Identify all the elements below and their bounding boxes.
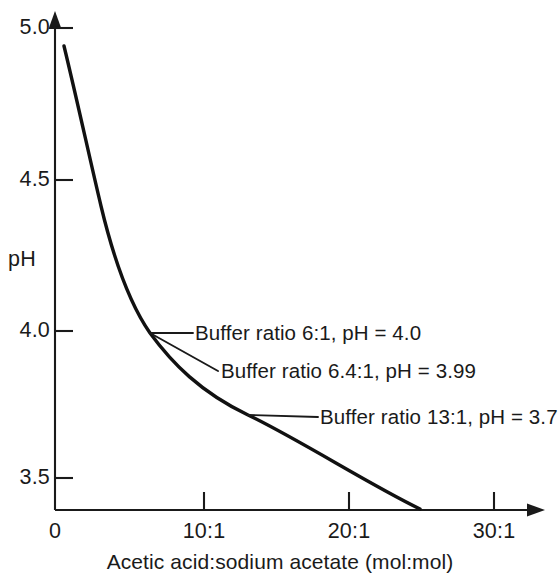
annotation-label-buffer-ratio-13-1: Buffer ratio 13:1, pH = 3.7: [320, 407, 558, 428]
y-axis-title: pH: [8, 249, 36, 271]
x-axis-title: Acetic acid:sodium acetate (mol:mol): [0, 551, 560, 572]
leader-line-annotation-3: [248, 415, 318, 417]
ph-buffer-ratio-chart: 5.0 4.5 4.0 3.5 pH 0 10:1 20:1 30:1 Acet…: [0, 0, 560, 577]
x-tick-label-30-1: 30:1: [459, 521, 529, 543]
x-axis-ticks: [204, 492, 494, 510]
annotation-label-buffer-ratio-6-1: Buffer ratio 6:1, pH = 4.0: [195, 323, 421, 344]
y-axis-arrow-icon: [49, 11, 62, 29]
x-tick-label-0: 0: [20, 521, 90, 543]
x-tick-label-20-1: 20:1: [314, 521, 384, 543]
y-axis-ticks: [55, 28, 73, 478]
y-axis: [49, 11, 62, 510]
chart-plot-area: [0, 0, 560, 577]
x-axis-arrow-icon: [527, 504, 545, 517]
x-tick-label-10-1: 10:1: [169, 521, 239, 543]
annotation-label-buffer-ratio-6-4-1: Buffer ratio 6.4:1, pH = 3.99: [221, 361, 476, 382]
y-tick-label-5-0: 5.0: [0, 17, 50, 39]
y-tick-label-3-5: 3.5: [0, 467, 50, 489]
y-tick-label-4-0: 4.0: [0, 320, 50, 342]
y-tick-label-4-5: 4.5: [0, 169, 50, 191]
x-axis: [55, 504, 545, 517]
ph-curve: [64, 46, 420, 509]
